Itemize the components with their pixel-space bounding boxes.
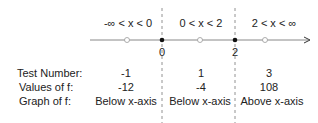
critical-point-dot [233,38,238,43]
test-point-circle [198,38,203,43]
test-number-cell: 1 [165,67,237,79]
row-label-values-of-f: Values of f: [19,81,73,93]
interval-label: -∞ < x < 0 [92,17,164,29]
f-value-cell: -12 [90,81,162,93]
critical-point-label: 2 [232,46,238,58]
interval-label: 0 < x < 2 [165,17,237,29]
test-point-circle [263,38,268,43]
graph-position-cell: Below x-axis [90,95,162,107]
graph-position-cell: Below x-axis [164,95,236,107]
test-number-cell: 3 [233,67,305,79]
interval-label: 2 < x < ∞ [238,17,310,29]
row-label-graph-of-f: Graph of f: [19,95,71,107]
f-value-cell: -4 [165,81,237,93]
critical-point-label: 0 [159,46,165,58]
row-label-test-number: Test Number: [17,67,82,79]
f-value-cell: 108 [233,81,305,93]
test-number-cell: -1 [90,67,162,79]
graph-position-cell: Above x-axis [236,95,308,107]
critical-point-dot [160,38,165,43]
test-point-circle [125,38,130,43]
